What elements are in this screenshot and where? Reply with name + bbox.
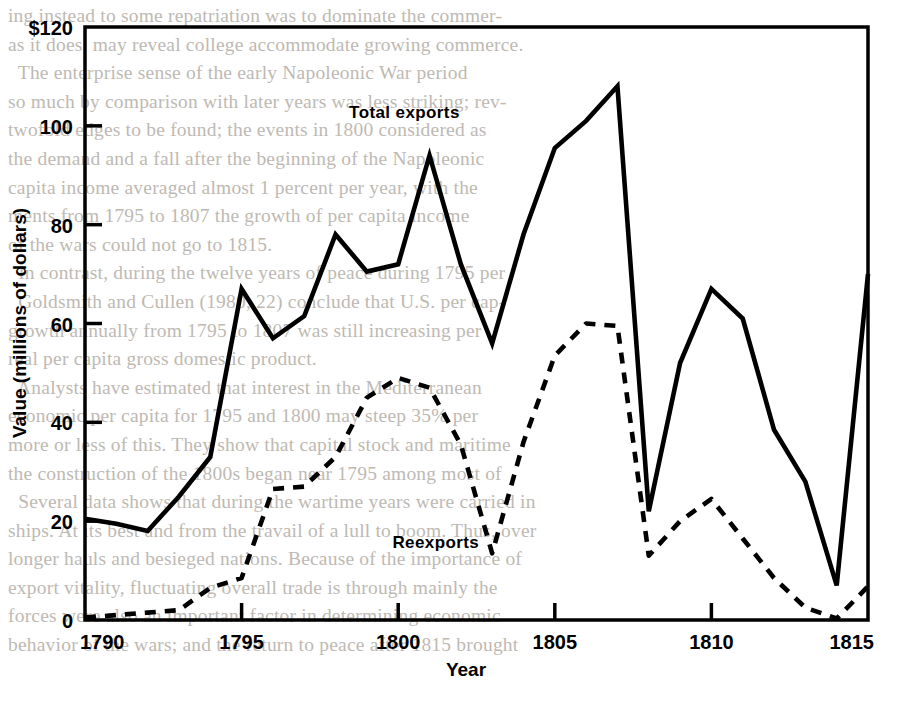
y-axis-tick-labels: 020406080100$120 xyxy=(29,17,74,632)
y-axis-title: Value (millions of dollars) xyxy=(9,208,30,438)
chart-svg: 020406080100$120 17901795180018051810181… xyxy=(0,0,902,703)
plot-area-border xyxy=(85,27,868,620)
x-axis-tick-marks xyxy=(242,603,712,620)
y-tick-label: 80 xyxy=(51,215,73,237)
y-tick-label: 0 xyxy=(62,610,73,632)
y-tick-label: 60 xyxy=(51,314,73,336)
series-inline-labels: Total exportsReexports xyxy=(349,103,479,552)
x-tick-label: 1805 xyxy=(533,631,578,653)
exports-chart-figure: 020406080100$120 17901795180018051810181… xyxy=(0,0,902,703)
x-tick-label: 1790 xyxy=(80,631,125,653)
series-line-total-exports xyxy=(85,86,868,585)
y-tick-label: 40 xyxy=(51,412,73,434)
series-label-reexports: Reexports xyxy=(392,533,479,552)
y-tick-label: $120 xyxy=(29,17,74,39)
x-tick-label: 1815 xyxy=(830,631,875,653)
x-tick-label: 1810 xyxy=(689,631,734,653)
series-line-reexports xyxy=(85,324,868,619)
x-axis-title: Year xyxy=(446,659,487,680)
x-tick-label: 1795 xyxy=(219,631,264,653)
y-tick-label: 100 xyxy=(40,116,73,138)
y-axis-tick-marks xyxy=(85,126,102,521)
x-tick-label: 1800 xyxy=(376,631,421,653)
x-axis-tick-labels: 179017951800180518101815 xyxy=(80,631,874,653)
series-label-total-exports: Total exports xyxy=(349,103,460,122)
y-tick-label: 20 xyxy=(51,511,73,533)
